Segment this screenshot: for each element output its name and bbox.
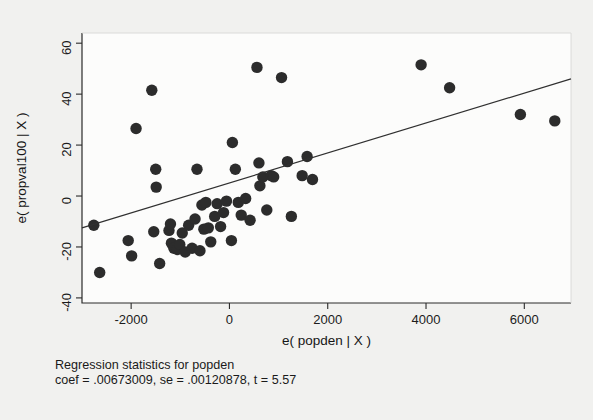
- data-point: [251, 62, 262, 73]
- data-point: [218, 207, 229, 218]
- data-point: [415, 59, 426, 70]
- data-point: [549, 115, 560, 126]
- data-point: [296, 170, 307, 181]
- y-tick-label: 60: [59, 40, 74, 54]
- x-tick-label: 0: [226, 312, 233, 327]
- data-point: [194, 245, 205, 256]
- data-point: [146, 85, 157, 96]
- data-point: [444, 82, 455, 93]
- data-point: [276, 72, 287, 83]
- data-point: [307, 174, 318, 185]
- data-point: [221, 195, 232, 206]
- data-point: [268, 171, 279, 182]
- x-axis-label: e( popden | X ): [282, 333, 371, 348]
- data-point: [122, 235, 133, 246]
- data-point: [150, 164, 161, 175]
- data-point: [191, 164, 202, 175]
- caption-line-1: Regression statistics for popden: [55, 358, 234, 372]
- caption-line-2: coef = .00673009, se = .00120878, t = 5.…: [55, 373, 296, 387]
- y-tick-label: 40: [59, 91, 74, 105]
- data-point: [203, 222, 214, 233]
- x-tick-label: -2000: [115, 312, 148, 327]
- data-point: [165, 218, 176, 229]
- data-point: [227, 137, 238, 148]
- data-point: [130, 123, 141, 134]
- data-point: [244, 215, 255, 226]
- data-point: [215, 221, 226, 232]
- figure-panel: -40-200204060 -20000200040006000 e( popd…: [0, 0, 593, 420]
- y-axis-label: e( propval100 | X ): [14, 113, 29, 224]
- data-point: [200, 197, 211, 208]
- y-tick-label: 0: [59, 197, 74, 204]
- data-point: [261, 204, 272, 215]
- data-point: [151, 181, 162, 192]
- data-point: [148, 226, 159, 237]
- data-point: [286, 211, 297, 222]
- x-tick-label: 6000: [510, 312, 539, 327]
- data-point: [515, 109, 526, 120]
- data-point: [240, 193, 251, 204]
- data-point: [230, 164, 241, 175]
- y-tick-label: -20: [59, 242, 74, 261]
- data-point: [94, 267, 105, 278]
- data-point: [154, 258, 165, 269]
- data-point: [205, 236, 216, 247]
- data-point: [253, 157, 264, 168]
- y-tick-label: -40: [59, 293, 74, 312]
- x-tick-label: 2000: [313, 312, 342, 327]
- data-point: [126, 250, 137, 261]
- y-tick-label: 20: [59, 142, 74, 156]
- data-point: [189, 213, 200, 224]
- data-point: [226, 235, 237, 246]
- added-variable-plot: -40-200204060 -20000200040006000 e( popd…: [0, 0, 593, 420]
- x-tick-label: 4000: [412, 312, 441, 327]
